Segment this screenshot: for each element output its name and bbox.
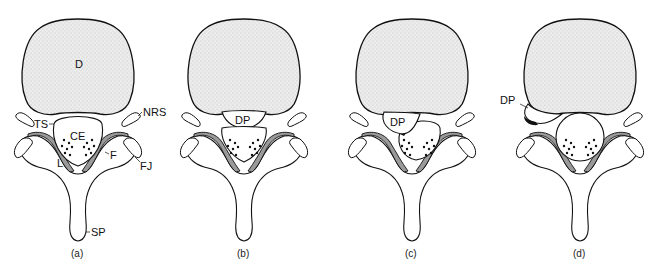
caption-a: (a) xyxy=(71,248,83,259)
panel-d: DP (d) xyxy=(500,19,644,259)
spine-cross-section-figure: D CE TS L F FJ NRS SP (a) DP (b) xyxy=(0,0,668,271)
label-disc: D xyxy=(75,58,83,70)
label-nerve-root-sleeve: NRS xyxy=(143,106,166,118)
label-lamina: L xyxy=(57,157,63,169)
label-thecal-sac: TS xyxy=(34,118,48,130)
panel-b: DP (b) xyxy=(180,19,307,259)
label-ligamentum-flavum: F xyxy=(110,149,117,161)
caption-b: (b) xyxy=(237,248,249,259)
label-disc-prolapse: DP xyxy=(390,116,405,128)
panel-a: D CE TS L F FJ NRS SP (a) xyxy=(14,19,166,259)
label-disc-prolapse: DP xyxy=(500,94,515,106)
label-disc-prolapse: DP xyxy=(235,114,250,126)
caption-c: (c) xyxy=(405,248,417,259)
panel-c: DP (c) xyxy=(348,19,475,259)
caption-d: (d) xyxy=(573,248,585,259)
label-facet-joint: FJ xyxy=(140,160,152,172)
label-spinous-process: SP xyxy=(91,226,106,238)
label-cauda-equina: CE xyxy=(70,130,85,142)
